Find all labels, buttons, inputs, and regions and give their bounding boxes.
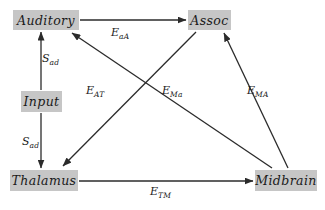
edge-label-midbrain-to-auditory: EMa	[162, 84, 183, 99]
edge-midbrain-to-assoc	[224, 33, 288, 168]
diagram-canvas: Auditory Assoc Input Thalamus Midbrain E…	[0, 0, 325, 210]
edge-label-assoc-to-thalamus: EAT	[86, 84, 104, 99]
edge-label-subscript: ad	[30, 141, 40, 150]
edge-label-subscript: aA	[119, 32, 129, 41]
node-thalamus-label: Thalamus	[12, 173, 77, 188]
node-assoc[interactable]: Assoc	[188, 10, 231, 30]
edge-label-subscript: TM	[158, 191, 171, 200]
edge-label-base: E	[111, 26, 119, 39]
edge-label-base: S	[42, 52, 50, 65]
edge-label-thalamus-to-midbrain: ETM	[150, 185, 171, 200]
node-auditory-label: Auditory	[17, 13, 75, 28]
edge-label-subscript: ad	[50, 58, 60, 67]
edge-label-base: E	[162, 84, 170, 97]
node-midbrain-label: Midbrain	[255, 173, 316, 188]
node-assoc-label: Assoc	[190, 13, 228, 28]
edge-label-midbrain-to-assoc: EMA	[247, 84, 269, 99]
edge-label-subscript: MA	[255, 90, 269, 99]
node-input-label: Input	[23, 94, 59, 109]
edge-label-auditory-to-assoc: EaA	[111, 26, 129, 41]
edge-label-base: E	[150, 185, 158, 198]
edge-label-subscript: Ma	[170, 90, 183, 99]
edge-label-input-to-auditory: Sad	[42, 52, 59, 67]
edge-label-subscript: AT	[94, 90, 104, 99]
node-midbrain[interactable]: Midbrain	[255, 170, 317, 191]
edge-label-base: E	[247, 84, 255, 97]
edge-label-base: E	[86, 84, 94, 97]
edge-label-base: S	[22, 135, 30, 148]
edge-label-input-to-thalamus: Sad	[22, 135, 39, 150]
node-thalamus[interactable]: Thalamus	[10, 170, 78, 191]
node-input[interactable]: Input	[21, 91, 62, 112]
edge-midbrain-to-auditory	[72, 33, 272, 168]
node-auditory[interactable]: Auditory	[13, 10, 79, 30]
